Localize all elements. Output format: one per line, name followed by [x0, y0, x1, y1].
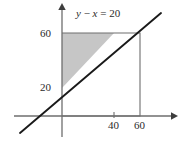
graph-figure: 60 20 40 60 y − x = 20	[0, 0, 182, 143]
y-axis-arrowhead	[58, 3, 65, 10]
y-axis-tick-label-60: 60	[40, 28, 51, 39]
y-axis-tick-label-20: 20	[40, 82, 51, 93]
x-axis-tick-label-60: 60	[134, 120, 145, 131]
x-axis-arrowhead	[171, 112, 178, 119]
coordinate-plane-svg	[0, 0, 182, 143]
equation-constant-value: 20	[109, 7, 120, 19]
x-axis-tick-label-40: 40	[108, 120, 119, 131]
line-equation-label: y − x = 20	[76, 8, 120, 19]
equation-equals-operator: =	[98, 7, 110, 19]
equation-minus-operator: −	[81, 7, 93, 19]
